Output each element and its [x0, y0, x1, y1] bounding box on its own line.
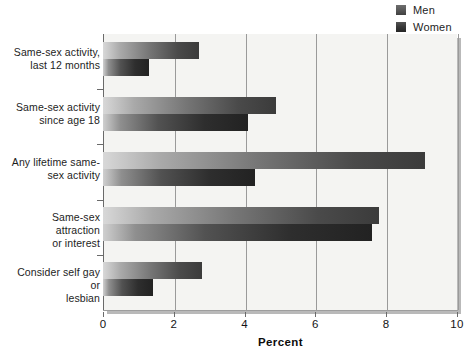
- gridline: [458, 34, 459, 310]
- category-label-4: Consider self gay orlesbian: [8, 266, 100, 305]
- category-tick: [97, 144, 104, 145]
- category-label-line: Same-sex activity: [8, 101, 100, 114]
- legend-label-women: Women: [413, 21, 452, 33]
- bar-women-0: [103, 59, 149, 76]
- bar-women-2: [103, 169, 255, 186]
- chart-legend: Men Women: [396, 2, 468, 36]
- x-axis-tick-label: 2: [159, 318, 189, 330]
- x-axis-tick: [386, 312, 387, 317]
- legend-swatch-men-icon: [396, 5, 406, 15]
- bar-men-3: [103, 207, 379, 224]
- x-axis-tick: [457, 312, 458, 317]
- legend-item-men[interactable]: Men: [396, 2, 468, 17]
- x-axis-tick-label: 4: [230, 318, 260, 330]
- category-tick: [97, 200, 104, 201]
- bar-men-1: [103, 97, 276, 114]
- category-label-3: Same-sex attractionor interest: [8, 211, 100, 250]
- category-label-line: sex activity: [8, 169, 100, 182]
- x-axis-tick: [315, 312, 316, 317]
- category-label-line: Consider self gay or: [8, 266, 100, 292]
- category-label-1: Same-sex activitysince age 18: [8, 101, 100, 127]
- category-label-line: since age 18: [8, 114, 100, 127]
- x-axis-tick: [103, 312, 104, 317]
- bar-men-0: [103, 42, 199, 59]
- x-axis-tick-label: 8: [371, 318, 401, 330]
- category-label-line: lesbian: [8, 292, 100, 305]
- category-label-line: Same-sex attraction: [8, 211, 100, 237]
- x-axis-tick-label: 10: [442, 318, 471, 330]
- chart-root: Men Women Same-sex activity,last 12 mont…: [0, 0, 471, 353]
- bar-men-2: [103, 152, 425, 169]
- category-label-0: Same-sex activity,last 12 months: [8, 46, 100, 72]
- category-tick: [97, 255, 104, 256]
- gridline: [387, 34, 388, 310]
- bar-women-1: [103, 114, 248, 131]
- x-axis-tick-label: 6: [300, 318, 330, 330]
- x-axis-tick: [245, 312, 246, 317]
- bar-women-4: [103, 279, 153, 296]
- x-axis-tick: [174, 312, 175, 317]
- x-axis-title: Percent: [103, 336, 458, 348]
- category-label-line: Any lifetime same-: [8, 156, 100, 169]
- category-axis-labels: Same-sex activity,last 12 monthsSame-sex…: [0, 0, 100, 353]
- category-tick: [97, 89, 104, 90]
- category-label-2: Any lifetime same-sex activity: [8, 156, 100, 182]
- bar-women-3: [103, 224, 372, 241]
- legend-item-women[interactable]: Women: [396, 19, 468, 34]
- legend-swatch-women-icon: [396, 22, 406, 32]
- category-label-line: or interest: [8, 237, 100, 250]
- bar-men-4: [103, 262, 202, 279]
- gridline: [316, 34, 317, 310]
- x-axis-line: [103, 310, 458, 311]
- category-label-line: Same-sex activity,: [8, 46, 100, 59]
- x-axis-tick-label: 0: [88, 318, 118, 330]
- category-label-line: last 12 months: [8, 59, 100, 72]
- legend-label-men: Men: [413, 4, 435, 16]
